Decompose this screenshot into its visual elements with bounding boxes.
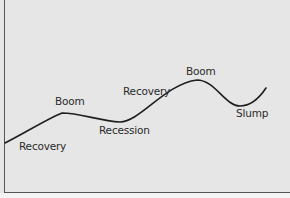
label-slump: Slump — [236, 107, 268, 119]
label-boom-1: Boom — [55, 95, 84, 107]
diagram-panel: Recovery Boom Recession Recovery Boom Sl… — [0, 0, 290, 198]
business-cycle-curve — [0, 0, 290, 198]
label-recovery-2: Recovery — [123, 85, 170, 97]
label-recovery-1: Recovery — [19, 140, 66, 152]
label-boom-2: Boom — [186, 65, 215, 77]
label-recession: Recession — [99, 124, 150, 136]
